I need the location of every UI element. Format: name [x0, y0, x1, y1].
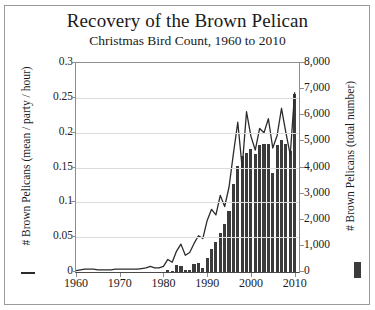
gridline [76, 168, 299, 169]
y-tick-label-right: 6,000 [304, 108, 364, 119]
y-tick-label-left: 0.3 [13, 56, 73, 67]
y-tick-mark-right [300, 271, 304, 272]
chart-title: Recovery of the Brown Pelican [0, 10, 375, 32]
y-tick-mark-left [71, 236, 75, 237]
y-tick-mark-right [300, 140, 304, 141]
x-tick-label: 1970 [95, 276, 145, 291]
y-tick-mark-left [71, 97, 75, 98]
y-tick-label-left: 0.15 [13, 161, 73, 172]
y-tick-mark-right [300, 114, 304, 115]
y-tick-label-left: 0.1 [13, 195, 73, 206]
x-tick-label: 1980 [138, 276, 188, 291]
y-tick-mark-right [300, 88, 304, 89]
y-axis-label-left: # Brown Pelicans (mean / party / hour) [20, 56, 32, 256]
y-tick-mark-left [71, 271, 75, 272]
y-tick-label-left: 0.25 [13, 91, 73, 102]
y-tick-label-right: 7,000 [304, 82, 364, 93]
x-tick-mark [120, 273, 121, 277]
x-tick-mark [207, 273, 208, 277]
gridline [76, 202, 299, 203]
y-tick-label-right: 0 [304, 265, 364, 276]
y-tick-label-right: 8,000 [304, 56, 364, 67]
y-tick-label-right: 1,000 [304, 239, 364, 250]
x-tick-mark [295, 273, 296, 277]
y-tick-label-right: 3,000 [304, 187, 364, 198]
y-tick-label-left: 0.05 [13, 230, 73, 241]
y-tick-label-right: 4,000 [304, 161, 364, 172]
y-tick-mark-right [300, 219, 304, 220]
y-tick-mark-right [300, 167, 304, 168]
gridline [76, 133, 299, 134]
x-tick-label: 1990 [182, 276, 232, 291]
x-tick-mark [76, 273, 77, 277]
y-tick-mark-left [71, 201, 75, 202]
x-tick-mark [251, 273, 252, 277]
chart-subtitle: Christmas Bird Count, 1960 to 2010 [0, 33, 375, 49]
y-tick-mark-right [300, 245, 304, 246]
y-tick-mark-right [300, 62, 304, 63]
y-tick-mark-right [300, 193, 304, 194]
y-tick-mark-left [71, 62, 75, 63]
gridline [76, 237, 299, 238]
y-tick-label-left: 0.2 [13, 126, 73, 137]
x-tick-label: 2000 [226, 276, 276, 291]
chart-figure: Recovery of the Brown Pelican Christmas … [0, 0, 375, 310]
y-tick-mark-left [71, 132, 75, 133]
gridline [76, 98, 299, 99]
y-tick-mark-left [71, 167, 75, 168]
x-tick-label: 2010 [270, 276, 320, 291]
y-tick-label-left: 0 [13, 265, 73, 276]
y-tick-label-right: 5,000 [304, 134, 364, 145]
y-tick-label-right: 2,000 [304, 213, 364, 224]
plot-area [75, 62, 300, 273]
x-tick-mark [163, 273, 164, 277]
x-tick-label: 1960 [51, 276, 101, 291]
